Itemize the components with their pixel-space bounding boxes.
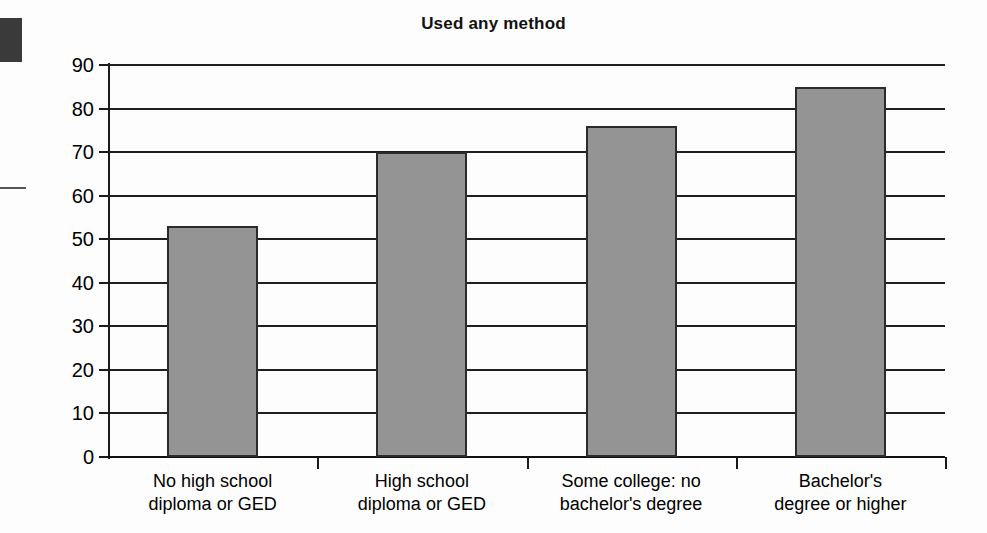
- y-tick-90: [99, 64, 108, 66]
- category-label-0: No high schooldiploma or GED: [108, 470, 317, 515]
- category-label-1: High schooldiploma or GED: [317, 470, 526, 515]
- y-tick-60: [99, 195, 108, 197]
- y-tick-20: [99, 369, 108, 371]
- y-tick-label-60: 60: [72, 186, 94, 206]
- category-label-3-line-1: degree or higher: [736, 493, 945, 516]
- category-tick-end: [945, 457, 947, 469]
- y-tick-0: [99, 456, 108, 458]
- y-tick-label-30: 30: [72, 316, 94, 336]
- category-label-3: Bachelor'sdegree or higher: [736, 470, 945, 515]
- plot-area: 0102030405060708090: [108, 65, 945, 457]
- category-label-2: Some college: nobachelor's degree: [527, 470, 736, 515]
- bar-0: [167, 226, 258, 457]
- y-tick-label-10: 10: [72, 403, 94, 423]
- scan-artifact-line: [0, 187, 26, 189]
- bar-1: [376, 152, 467, 457]
- category-label-2-line-1: bachelor's degree: [527, 493, 736, 516]
- y-tick-label-70: 70: [72, 142, 94, 162]
- y-tick-label-50: 50: [72, 229, 94, 249]
- gridline-90: 90: [108, 64, 945, 66]
- y-tick-label-80: 80: [72, 99, 94, 119]
- y-tick-50: [99, 238, 108, 240]
- category-label-3-line-0: Bachelor's: [736, 470, 945, 493]
- y-tick-label-20: 20: [72, 360, 94, 380]
- category-label-0-line-1: diploma or GED: [108, 493, 317, 516]
- category-label-0-line-0: No high school: [108, 470, 317, 493]
- bar-3: [795, 87, 886, 457]
- category-label-2-line-0: Some college: no: [527, 470, 736, 493]
- category-tick-1: [317, 457, 319, 469]
- y-tick-80: [99, 108, 108, 110]
- y-tick-label-90: 90: [72, 55, 94, 75]
- y-tick-10: [99, 412, 108, 414]
- y-tick-label-40: 40: [72, 273, 94, 293]
- y-tick-40: [99, 282, 108, 284]
- category-tick-3: [736, 457, 738, 469]
- category-tick-2: [527, 457, 529, 469]
- category-label-1-line-0: High school: [317, 470, 526, 493]
- y-tick-70: [99, 151, 108, 153]
- y-tick-30: [99, 325, 108, 327]
- bar-2: [586, 126, 677, 457]
- y-tick-label-0: 0: [83, 447, 94, 467]
- category-label-1-line-1: diploma or GED: [317, 493, 526, 516]
- chart-title: Used any method: [0, 14, 987, 34]
- chart-screenshot: Used any method 0102030405060708090 No h…: [0, 0, 987, 533]
